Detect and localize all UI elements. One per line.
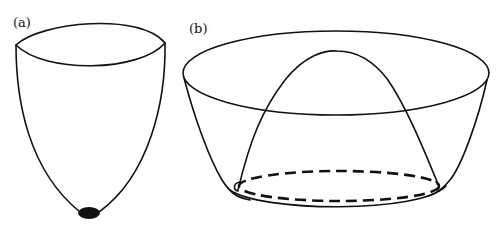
panel-a-bowl-left <box>16 45 80 212</box>
panel-a-label: (a) <box>13 15 31 30</box>
panel-a: (a) <box>13 15 165 219</box>
panel-b-minima-ring <box>239 171 439 201</box>
panel-b-rim <box>183 31 489 115</box>
panel-b-bowl-right <box>428 80 487 196</box>
panel-a-bowl-right <box>99 43 165 212</box>
panel-b-central-hump <box>238 51 438 190</box>
panel-a-rim <box>16 24 165 66</box>
panel-a-minimum <box>78 207 100 219</box>
panel-b: (b) <box>183 21 489 207</box>
panel-b-label: (b) <box>189 21 207 36</box>
figure-canvas: (a) (b) <box>0 0 501 229</box>
